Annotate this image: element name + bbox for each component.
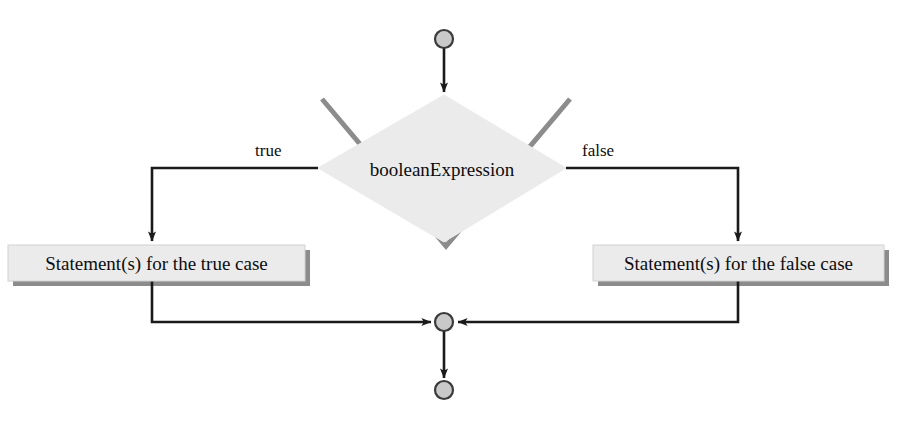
end-circle-node[interactable] <box>435 381 453 399</box>
edge-true-to-merge <box>152 281 431 322</box>
merge-circle-node[interactable] <box>435 313 453 331</box>
edge-true-branch <box>152 168 318 241</box>
start-circle-node[interactable] <box>435 30 453 48</box>
decision-label: booleanExpression <box>318 160 566 179</box>
edge-false-branch <box>566 168 738 241</box>
edge-false-to-merge <box>458 281 738 322</box>
flowchart-svg <box>0 0 901 422</box>
false-statement-label: Statement(s) for the false case <box>593 254 884 273</box>
true-edge-label: true <box>255 142 281 159</box>
shapes <box>8 30 884 399</box>
true-statement-label: Statement(s) for the true case <box>8 254 305 273</box>
flowchart-canvas: booleanExpression Statement(s) for the t… <box>0 0 901 422</box>
false-edge-label: false <box>582 142 614 159</box>
